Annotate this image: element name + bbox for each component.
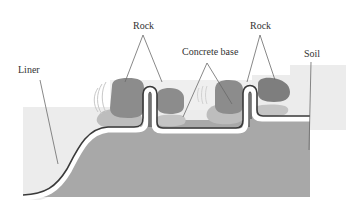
label-concrete-base: Concrete base (182, 46, 238, 58)
rock-left-outer (110, 78, 144, 118)
leader-rock-right-b (260, 35, 275, 80)
concrete-base-mid-left (155, 114, 186, 126)
rock-right-outer (215, 80, 243, 114)
liner-diagram (0, 0, 346, 210)
leader-rock-right-a (247, 35, 260, 82)
leader-rock-left-a (125, 35, 143, 82)
label-liner: Liner (18, 64, 40, 76)
leader-rock-left-b (143, 35, 162, 82)
label-rock-right: Rock (250, 20, 271, 32)
rock-left-inner (157, 88, 184, 114)
label-rock-left: Rock (133, 20, 154, 32)
label-soil: Soil (304, 48, 320, 60)
